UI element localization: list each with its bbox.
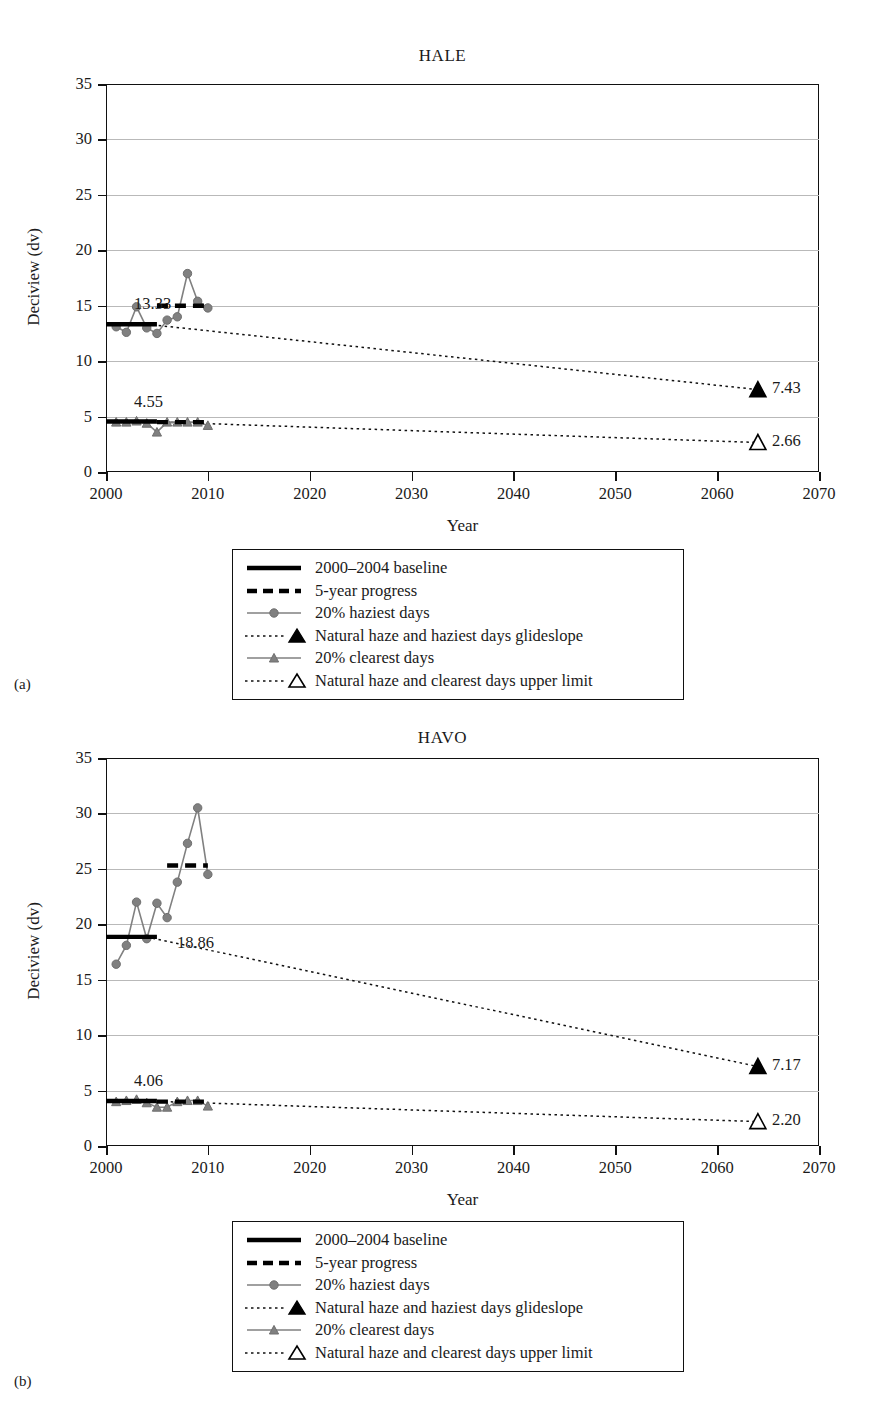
subplot-label-b: (b) (14, 1373, 32, 1390)
y-tick-label: 10 (50, 1025, 92, 1045)
subplot-label-a: (a) (14, 676, 31, 693)
plot-frame (106, 84, 819, 472)
x-tick-label: 2030 (377, 1158, 447, 1178)
y-tick-label: 10 (50, 351, 92, 371)
legend-label: 20% haziest days (309, 603, 430, 623)
legend-item: 5-year progress (243, 1252, 671, 1275)
y-tick-label: 5 (50, 1081, 92, 1101)
gridline-horizontal (106, 139, 819, 140)
gridline-horizontal (106, 250, 819, 251)
legend-key-solid-thick-black-line (243, 1230, 309, 1250)
x-tick-label: 2030 (377, 484, 447, 504)
x-tick-mark (717, 1146, 719, 1155)
legend-label: Natural haze and clearest days upper lim… (309, 671, 593, 691)
x-tick-mark (615, 472, 617, 481)
y-tick-label: 20 (50, 240, 92, 260)
y-axis-title: Deciview (dv) (24, 757, 44, 1145)
glideslope-endpoint-label: 2.66 (772, 431, 801, 451)
y-tick-label: 25 (50, 859, 92, 879)
legend-key-dotted-line-open-triangle (243, 1343, 309, 1363)
legend-key-dashed-thick-black-line (243, 1253, 309, 1273)
x-tick-mark (106, 1146, 108, 1155)
legend-key-icon (243, 1343, 309, 1363)
chart-title-a: HALE (0, 46, 885, 66)
y-tick-mark (98, 980, 107, 982)
gridline-horizontal (106, 869, 819, 870)
y-tick-mark (98, 361, 107, 363)
legend-label: 20% clearest days (309, 648, 434, 668)
baseline-value-label: 18.86 (177, 933, 214, 953)
x-tick-mark (513, 472, 515, 481)
x-axis-title: Year (106, 516, 819, 536)
y-tick-label: 5 (50, 407, 92, 427)
legend-key-icon (243, 1230, 309, 1250)
legend-key-icon (243, 603, 309, 623)
gridline-horizontal (106, 1035, 819, 1036)
x-tick-label: 2020 (275, 484, 345, 504)
x-tick-mark (208, 1146, 210, 1155)
legend-item: Natural haze and clearest days upper lim… (243, 670, 671, 693)
y-tick-label: 30 (50, 129, 92, 149)
gridline-horizontal (106, 417, 819, 418)
plot-area-b: 0510152025303520002010202020302040205020… (106, 758, 819, 1146)
glideslope-endpoint-label: 2.20 (772, 1110, 801, 1130)
legend-key-dotted-line-filled-triangle (243, 626, 309, 646)
x-tick-mark (310, 1146, 312, 1155)
x-tick-label: 2060 (682, 1158, 752, 1178)
x-tick-mark (513, 1146, 515, 1155)
legend-label: Natural haze and haziest days glideslope (309, 1298, 583, 1318)
legend-key-icon (243, 626, 309, 646)
x-tick-mark (717, 472, 719, 481)
y-tick-label: 0 (50, 462, 92, 482)
legend-key-icon (243, 1253, 309, 1273)
legend-key-icon (243, 581, 309, 601)
y-tick-mark (98, 1091, 107, 1093)
legend-item: 20% clearest days (243, 1319, 671, 1342)
y-tick-mark (98, 306, 107, 308)
gridline-horizontal (106, 361, 819, 362)
gridline-horizontal (106, 924, 819, 925)
y-tick-mark (98, 869, 107, 871)
legend-item: 20% haziest days (243, 602, 671, 625)
y-tick-mark (98, 813, 107, 815)
y-tick-mark (98, 195, 107, 197)
y-axis-title: Deciview (dv) (24, 83, 44, 471)
legend-item: Natural haze and haziest days glideslope (243, 625, 671, 648)
legend-key-gray-line-triangle-marker (243, 1320, 309, 1340)
gridline-horizontal (106, 306, 819, 307)
y-tick-label: 20 (50, 914, 92, 934)
gridline-horizontal (106, 813, 819, 814)
legend-b: 2000–2004 baseline5-year progress20% haz… (232, 1221, 684, 1372)
legend-item: 2000–2004 baseline (243, 1229, 671, 1252)
legend-label: 2000–2004 baseline (309, 558, 447, 578)
y-tick-label: 35 (50, 748, 92, 768)
legend-key-dotted-line-open-triangle (243, 671, 309, 691)
baseline-value-label: 13.33 (134, 294, 171, 314)
legend-label: Natural haze and haziest days glideslope (309, 626, 583, 646)
x-tick-label: 2060 (682, 484, 752, 504)
x-tick-label: 2010 (173, 484, 243, 504)
x-tick-label: 2070 (784, 484, 854, 504)
x-tick-label: 2010 (173, 1158, 243, 1178)
legend-key-dashed-thick-black-line (243, 581, 309, 601)
x-tick-mark (106, 472, 108, 481)
x-tick-mark (310, 472, 312, 481)
legend-key-icon (243, 558, 309, 578)
legend-label: 5-year progress (309, 1253, 417, 1273)
legend-item: 2000–2004 baseline (243, 557, 671, 580)
legend-key-solid-thick-black-line (243, 558, 309, 578)
gridline-horizontal (106, 1091, 819, 1092)
y-tick-mark (98, 139, 107, 141)
y-tick-label: 15 (50, 296, 92, 316)
y-tick-label: 15 (50, 970, 92, 990)
legend-item: 5-year progress (243, 580, 671, 603)
legend-key-icon (243, 671, 309, 691)
x-tick-label: 2000 (71, 484, 141, 504)
y-tick-mark (98, 84, 107, 86)
x-tick-label: 2050 (580, 484, 650, 504)
legend-item: Natural haze and haziest days glideslope (243, 1297, 671, 1320)
y-tick-label: 30 (50, 803, 92, 823)
y-tick-label: 0 (50, 1136, 92, 1156)
legend-key-gray-line-circle-marker (243, 1275, 309, 1295)
y-tick-mark (98, 1035, 107, 1037)
